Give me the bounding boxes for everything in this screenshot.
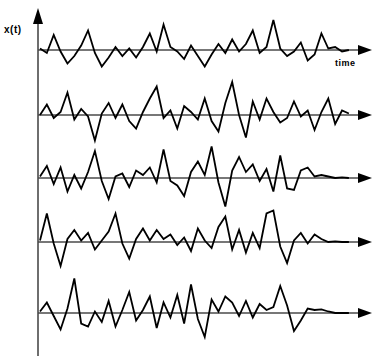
y-axis-label: x(t) xyxy=(4,24,22,35)
time-axis-arrowhead-1 xyxy=(358,45,372,55)
waveform-realization-1 xyxy=(40,20,349,67)
waveform-realization-4 xyxy=(40,211,349,267)
waveform-plot-canvas xyxy=(0,0,380,363)
x-axis-label: time xyxy=(335,58,356,68)
time-axis-arrowhead-2 xyxy=(358,110,372,120)
time-axis-arrowhead-3 xyxy=(358,173,372,183)
y-axis-arrowhead xyxy=(33,8,43,24)
time-axes-layer xyxy=(38,45,372,318)
waveform-realization-3 xyxy=(40,147,349,207)
y-axis xyxy=(33,8,43,356)
waveform-realization-2 xyxy=(40,82,349,141)
waveform-realization-5 xyxy=(40,279,349,338)
time-axis-arrowhead-5 xyxy=(358,308,372,318)
random-process-figure: x(t) time xyxy=(0,0,380,363)
time-axis-arrowhead-4 xyxy=(358,237,372,247)
